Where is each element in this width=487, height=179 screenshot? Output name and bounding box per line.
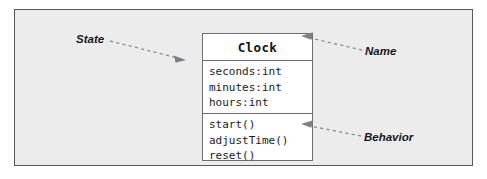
annotation-label-behavior: Behavior [364,131,413,143]
class-name-text: Clock [238,40,278,55]
uml-class-box: Clock seconds:int minutes:int hours:int … [202,33,313,161]
attributes-compartment: seconds:int minutes:int hours:int [203,61,312,114]
operation-item: adjustTime() [209,133,306,149]
uml-class-diagram-figure: Clock seconds:int minutes:int hours:int … [0,0,487,179]
annotation-label-state: State [76,33,104,45]
annotation-label-name: Name [365,45,396,57]
attribute-item: seconds:int [209,64,306,80]
class-name-compartment: Clock [203,34,312,61]
operation-item: reset() [209,148,306,164]
attribute-item: minutes:int [209,80,306,96]
operation-item: start() [209,117,306,133]
attribute-item: hours:int [209,95,306,111]
operations-compartment: start() adjustTime() reset() [203,114,312,160]
